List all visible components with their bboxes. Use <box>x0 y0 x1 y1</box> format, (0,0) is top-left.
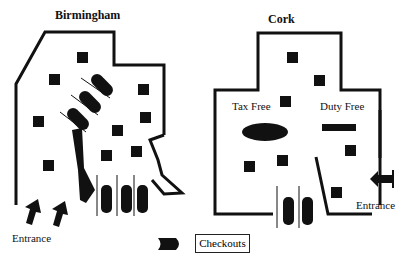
birmingham-entrance-arrows <box>25 199 68 227</box>
floor-plans <box>0 0 407 271</box>
birmingham-entrance-label: Entrance <box>12 232 51 244</box>
cork-title: Cork <box>268 12 295 27</box>
cork-entrance-arrow <box>370 170 394 188</box>
birmingham-title: Birmingham <box>55 8 120 23</box>
checkout-icon <box>158 238 179 250</box>
cork-checkouts <box>283 197 313 225</box>
cork-zone-duty-free: Duty Free <box>320 100 364 112</box>
cork-zone-tax-free: Tax Free <box>232 100 271 112</box>
birmingham-displays <box>33 52 151 203</box>
legend-checkouts: Checkouts <box>195 234 250 253</box>
cork-entrance-label: Entrance <box>356 199 395 211</box>
